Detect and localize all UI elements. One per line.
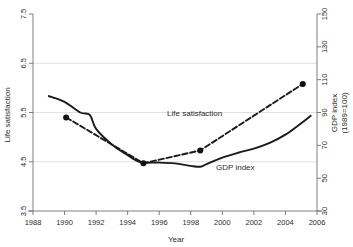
x-tick-label: 1988 xyxy=(25,218,42,227)
y-axis-left-title: Life satisfaction xyxy=(3,87,12,142)
x-tick-label: 2002 xyxy=(246,218,263,227)
y-axis-right-title-line2: (1989=100) xyxy=(340,92,349,133)
gdp-index-label: GDP index xyxy=(216,163,255,172)
y-right-tick-label: 70 xyxy=(320,141,329,149)
x-tick-label: 2000 xyxy=(214,218,231,227)
y-axis-right-title-line1: GDP index xyxy=(330,94,339,133)
data-point-marker xyxy=(140,160,146,166)
y-right-tick-label: 130 xyxy=(320,41,329,54)
x-tick-label: 2004 xyxy=(277,218,294,227)
line-chart: 1988199019921994199619982000200220042006… xyxy=(0,0,353,247)
y-left-tick-label: 7.5 xyxy=(19,9,28,19)
y-left-tick-label: 3.5 xyxy=(19,206,28,216)
data-point-marker xyxy=(300,81,306,87)
x-tick-label: 1994 xyxy=(119,218,136,227)
y-right-tick-label: 110 xyxy=(320,74,329,86)
x-tick-label: 1998 xyxy=(182,218,199,227)
x-tick-label: 1992 xyxy=(88,218,105,227)
x-tick-label: 1996 xyxy=(151,218,168,227)
chart-container: 1988199019921994199619982000200220042006… xyxy=(0,0,353,247)
y-right-tick-label: 50 xyxy=(320,174,329,182)
y-left-tick-label: 4.5 xyxy=(19,157,28,167)
y-left-tick-label: 6.5 xyxy=(19,58,28,68)
y-left-tick-label: 5.5 xyxy=(19,107,28,117)
x-tick-label: 1990 xyxy=(56,218,73,227)
data-point-marker xyxy=(63,114,69,120)
x-axis-title: Year xyxy=(168,235,185,244)
x-tick-label: 2006 xyxy=(309,218,326,227)
data-point-marker xyxy=(197,147,203,153)
y-right-tick-label: 30 xyxy=(320,207,329,215)
life-satisfaction-label: Life satisfaction xyxy=(167,109,222,118)
y-right-tick-label: 90 xyxy=(320,108,329,116)
y-right-tick-label: 150 xyxy=(320,8,329,21)
